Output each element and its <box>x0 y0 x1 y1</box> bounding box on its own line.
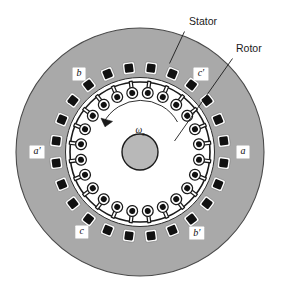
phase-label-text: c′ <box>198 68 205 79</box>
phase-label-text: b <box>77 68 82 79</box>
stator-slot-conductor <box>51 158 61 168</box>
stator-slot <box>217 134 230 147</box>
stator-slot-conductor <box>146 63 156 73</box>
stator-slot <box>144 61 157 74</box>
machine-cross-section-figure: ωs Stator Rotor bc′a′acb′ <box>0 0 281 299</box>
phase-label-letter: c <box>80 226 85 237</box>
machine-diagram-svg: ωs Stator Rotor bc′a′acb′ <box>0 0 281 299</box>
phase-label-text: b′ <box>193 227 201 238</box>
phase-label-text: a′ <box>33 146 41 157</box>
phase-label-c-prime: c′ <box>193 67 208 80</box>
phase-label-c: c <box>75 226 88 239</box>
phase-label-b: b <box>73 67 86 80</box>
phase-label-a-prime: a′ <box>30 146 45 159</box>
phase-label-text: c <box>80 226 85 237</box>
stator-slot <box>122 229 135 242</box>
stator-slot-conductor <box>146 231 156 241</box>
rotor-callout-label: Rotor <box>236 42 262 54</box>
stator-slot-conductor <box>124 231 134 241</box>
phase-label-b-prime: b′ <box>189 227 204 240</box>
stator-slot <box>122 61 135 74</box>
stator-slot <box>217 156 230 169</box>
stator-slot-conductor <box>219 158 229 168</box>
phase-label-text: a <box>241 146 246 157</box>
phase-label-a: a <box>237 146 250 159</box>
stator-slot <box>144 229 157 242</box>
stator-slot-conductor <box>219 136 229 146</box>
stator-slot <box>49 134 62 147</box>
phase-label-letter: b <box>77 68 82 79</box>
phase-label-letter: a <box>241 146 246 157</box>
shaft-circle <box>122 134 158 170</box>
stator-slot <box>49 156 62 169</box>
stator-slot-conductor <box>51 136 61 146</box>
stator-callout-label: Stator <box>189 15 218 27</box>
stator-slot-conductor <box>124 63 134 73</box>
